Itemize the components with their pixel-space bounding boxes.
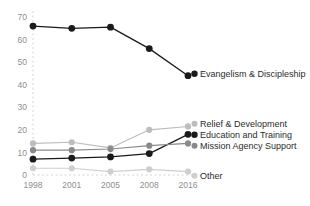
y-axis-tick-labels: 010203040506070: [18, 12, 28, 180]
data-point-marker: [30, 23, 37, 30]
data-point-marker: [68, 155, 75, 162]
series-line: [33, 26, 188, 76]
series-label: Evangelism & Discipleship: [200, 69, 306, 79]
data-point-marker: [30, 165, 36, 171]
x-tick-label: 1998: [24, 180, 43, 190]
data-point-marker: [146, 150, 153, 157]
series-label: Mission Agency Support: [200, 141, 297, 151]
y-tick-label: 60: [18, 35, 28, 45]
data-point-marker: [68, 25, 75, 32]
data-point-marker: [146, 143, 152, 149]
data-point-marker: [107, 169, 113, 175]
y-tick-label: 50: [18, 57, 28, 67]
series-label: Relief & Development: [200, 119, 288, 129]
data-point-marker: [107, 146, 113, 152]
data-point-marker: [185, 72, 192, 79]
data-point-marker: [146, 127, 152, 133]
y-tick-label: 0: [22, 170, 27, 180]
chart-canvas: 010203040506070 19982001200520082016 Eva…: [0, 0, 310, 206]
data-point-marker: [30, 147, 36, 153]
data-point-marker: [185, 123, 191, 129]
data-point-marker: [185, 140, 191, 146]
legend-marker: [192, 173, 198, 179]
data-point-marker: [185, 169, 191, 175]
label-leader-lines: [191, 71, 197, 179]
x-tick-label: 2008: [140, 180, 159, 190]
x-tick-label: 2005: [101, 180, 120, 190]
data-point-marker: [69, 147, 75, 153]
data-point-marker: [107, 154, 114, 161]
series-markers: [30, 23, 192, 175]
data-point-marker: [185, 131, 192, 138]
y-tick-label: 70: [18, 12, 28, 22]
data-point-marker: [107, 24, 114, 31]
x-tick-label: 2001: [62, 180, 81, 190]
series-label: Education and Training: [200, 130, 292, 140]
line-chart: 010203040506070 19982001200520082016 Eva…: [0, 0, 310, 206]
x-tick-label: 2016: [179, 180, 198, 190]
data-point-marker: [146, 166, 152, 172]
data-point-marker: [30, 156, 37, 163]
y-tick-label: 40: [18, 80, 28, 90]
x-axis-tick-labels: 19982001200520082016: [24, 180, 198, 190]
data-point-marker: [146, 45, 153, 52]
y-tick-label: 20: [18, 125, 28, 135]
data-point-marker: [69, 165, 75, 171]
legend-marker: [191, 132, 197, 138]
data-point-marker: [30, 140, 36, 146]
series-inline-labels: Evangelism & DiscipleshipRelief & Develo…: [200, 69, 306, 181]
series-label: Other: [200, 171, 223, 181]
legend-marker: [191, 71, 197, 77]
y-tick-label: 30: [18, 102, 28, 112]
y-tick-label: 10: [18, 148, 28, 158]
legend-marker: [192, 143, 198, 149]
legend-marker: [192, 121, 198, 127]
data-point-marker: [69, 139, 75, 145]
